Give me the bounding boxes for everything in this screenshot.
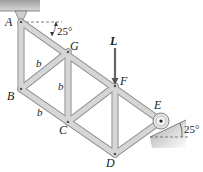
angle-label-e: 25° — [184, 123, 199, 135]
angle-label-a: 25° — [57, 25, 72, 37]
joint-label-b: B — [7, 89, 15, 103]
load-arrow-f — [112, 48, 119, 85]
truss-diagram: 25° 25° — [0, 0, 203, 172]
joint-label-c: C — [59, 123, 68, 137]
joint-label-d: D — [105, 156, 115, 170]
ceiling-ground — [0, 0, 40, 11]
dimension-label-bc: b — [37, 106, 43, 118]
joint-label-g: G — [70, 39, 79, 53]
dimension-label-bg: b — [36, 57, 42, 69]
joint-label-e: E — [153, 98, 162, 112]
load-label: L — [109, 34, 117, 48]
roller-support-e — [153, 113, 169, 129]
dimension-label-gc: b — [58, 80, 64, 92]
joint-label-a: A — [4, 15, 13, 29]
truss-members — [21, 22, 161, 154]
joint-label-f: F — [119, 74, 128, 88]
